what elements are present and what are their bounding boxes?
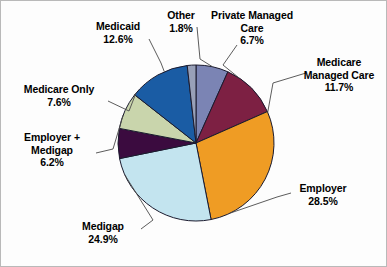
- slice-label-employer: Employer 28.5%: [287, 182, 359, 207]
- slice-label-employer-plus-medigap-value: 6.2%: [10, 156, 94, 169]
- slice-label-medicare-managed-care-name-line1: Medicare: [293, 56, 385, 69]
- slice-label-private-managed-care-name-line1: Private Managed: [211, 9, 293, 22]
- slice-label-employer-plus-medigap-name-line2: Medigap: [10, 144, 94, 157]
- slice-label-private-managed-care-value: 6.7%: [211, 34, 293, 47]
- pie-chart-figure: Other 1.8% Private Managed Care 6.7% Med…: [0, 0, 387, 267]
- slice-label-employer-name: Employer: [287, 182, 359, 195]
- slice-label-medicaid-name: Medicaid: [81, 20, 155, 33]
- slice-label-medicaid-value: 12.6%: [81, 33, 155, 46]
- slice-label-medicare-managed-care: Medicare Managed Care 11.7%: [293, 56, 385, 94]
- slice-label-medicare-only: Medicare Only 7.6%: [9, 83, 109, 108]
- slice-label-private-managed-care: Private Managed Care 6.7%: [211, 9, 293, 47]
- slice-label-medigap: Medigap 24.9%: [67, 220, 139, 245]
- slice-label-medicare-managed-care-name-line2: Managed Care: [293, 69, 385, 82]
- pie-slices-group: [118, 65, 274, 221]
- slice-label-employer-value: 28.5%: [287, 195, 359, 208]
- slice-label-other-value: 1.8%: [153, 22, 209, 35]
- slice-label-employer-plus-medigap: Employer + Medigap 6.2%: [10, 131, 94, 169]
- slice-label-private-managed-care-name-line2: Care: [211, 22, 293, 35]
- slice-label-medigap-name: Medigap: [67, 220, 139, 233]
- slice-label-medicare-managed-care-value: 11.7%: [293, 81, 385, 94]
- slice-label-medicare-only-value: 7.6%: [9, 96, 109, 109]
- slice-label-other-name: Other: [153, 9, 209, 22]
- slice-label-medicaid: Medicaid 12.6%: [81, 20, 155, 45]
- slice-label-employer-plus-medigap-name-line1: Employer +: [10, 131, 94, 144]
- slice-label-medicare-only-name: Medicare Only: [9, 83, 109, 96]
- slice-label-medigap-value: 24.9%: [67, 233, 139, 246]
- slice-label-other: Other 1.8%: [153, 9, 209, 34]
